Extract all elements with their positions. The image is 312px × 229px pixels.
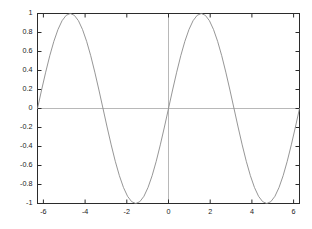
x-tick-label: -6 bbox=[40, 207, 46, 216]
y-tick-label: 0.2 bbox=[23, 84, 33, 93]
x-tick-label: -2 bbox=[124, 207, 130, 216]
y-tick-label: 0 bbox=[29, 103, 33, 112]
y-tick-label: -0.6 bbox=[20, 160, 32, 169]
y-tick-label: -0.2 bbox=[20, 122, 32, 131]
x-tick-label: 6 bbox=[292, 207, 296, 216]
y-tick-label: -0.8 bbox=[20, 179, 32, 188]
x-tick-label: 4 bbox=[250, 207, 254, 216]
y-tick-label: -1 bbox=[26, 198, 32, 207]
y-tick-label: -0.4 bbox=[20, 141, 32, 150]
y-tick-label: 1 bbox=[29, 8, 33, 17]
x-tick-label: 2 bbox=[208, 207, 212, 216]
x-tick-label: -4 bbox=[82, 207, 88, 216]
y-tick-label: 0.4 bbox=[23, 65, 33, 74]
y-tick-label: 0.6 bbox=[23, 46, 33, 55]
y-tick-label: 0.8 bbox=[23, 27, 33, 36]
chart-figure: -1-0.8-0.6-0.4-0.200.20.40.60.81 -6-4-20… bbox=[0, 0, 312, 229]
chart-background bbox=[0, 0, 312, 229]
x-tick-label: 0 bbox=[167, 207, 171, 216]
sine-plot: -1-0.8-0.6-0.4-0.200.20.40.60.81 -6-4-20… bbox=[0, 0, 312, 229]
